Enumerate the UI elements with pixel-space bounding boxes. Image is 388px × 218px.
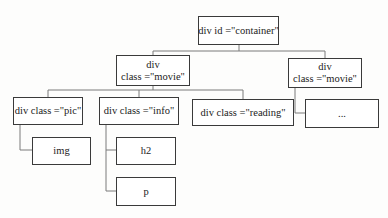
node-ellipsis: ... — [305, 99, 379, 128]
node-movie-1: div class ="movie" — [116, 55, 190, 86]
node-container: div id ="container" — [198, 16, 279, 45]
node-info: div class ="info" — [99, 97, 179, 125]
node-reading: div class ="reading" — [192, 99, 294, 126]
node-label: h2 — [141, 145, 152, 157]
node-h2: h2 — [116, 137, 176, 165]
dom-tree-diagram: div id ="container" div class ="movie" d… — [0, 0, 388, 218]
node-label-secondary: class ="movie" — [293, 73, 357, 85]
node-label: div class ="pic" — [15, 105, 81, 117]
node-label: div class ="info" — [104, 105, 175, 117]
node-label: div id ="container" — [198, 25, 278, 37]
node-label: p — [143, 186, 148, 198]
node-label: ... — [338, 108, 346, 120]
node-label-secondary: class ="movie" — [121, 71, 185, 83]
node-label: div class ="reading" — [200, 107, 285, 119]
node-label: div — [318, 61, 331, 73]
node-label: div — [146, 59, 159, 71]
node-p: p — [116, 177, 176, 206]
node-img: img — [32, 137, 91, 165]
node-pic: div class ="pic" — [13, 97, 83, 125]
node-movie-2: div class ="movie" — [288, 58, 362, 88]
node-label: img — [53, 145, 69, 157]
